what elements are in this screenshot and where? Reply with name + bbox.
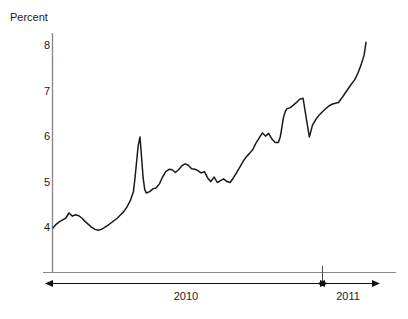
data-series-line bbox=[53, 42, 366, 230]
plot-area bbox=[0, 0, 408, 319]
chart-figure: Percent 8 7 6 5 4 2010 2011 bbox=[0, 0, 408, 319]
